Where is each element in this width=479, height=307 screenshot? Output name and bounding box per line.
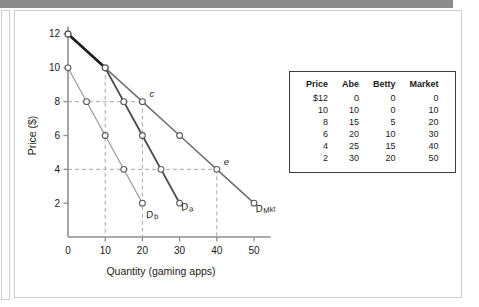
table-cell: 10	[335, 104, 366, 116]
table-cell: 20	[366, 152, 403, 164]
table-row: $12000	[299, 92, 446, 104]
demand-schedule-table: Price Abe Betty Market $1200010100108155…	[289, 71, 456, 173]
data-point-market	[214, 166, 220, 172]
x-axis-title: Quantity (gaming apps)	[106, 265, 215, 277]
th-abe: Abe	[335, 79, 366, 92]
point-label-c: c	[149, 88, 154, 99]
data-point-abe	[158, 166, 164, 172]
table-row: 1010010	[299, 104, 446, 116]
left-margin-strip	[1, 10, 10, 300]
table-cell: $12	[299, 92, 335, 104]
table-header-row: Price Abe Betty Market	[299, 79, 446, 92]
table-row: 815520	[299, 116, 446, 128]
table-cell: 40	[403, 140, 446, 152]
curve-label-market: DMkt	[254, 199, 277, 217]
table-cell: 8	[299, 116, 335, 128]
demand-schedule: Price Abe Betty Market $1200010100108155…	[299, 79, 446, 164]
y-tick-label: 10	[49, 62, 61, 73]
table-cell: 4	[299, 140, 335, 152]
table-cell: 6	[299, 128, 335, 140]
table-cell: 15	[335, 116, 366, 128]
table-cell: 2	[299, 152, 335, 164]
demand-curve-figure: 2468101201020304050Quantity (gaming apps…	[15, 11, 463, 299]
table-row: 4251540	[299, 140, 446, 152]
data-point-betty	[102, 133, 108, 139]
page-panel: 2468101201020304050Quantity (gaming apps…	[14, 10, 462, 298]
table-cell: 10	[403, 104, 446, 116]
data-point-market	[140, 99, 146, 105]
data-point-betty	[84, 99, 90, 105]
data-point-abe	[140, 133, 146, 139]
table-cell: 0	[403, 92, 446, 104]
data-point-betty	[140, 200, 146, 206]
table-cell: 30	[335, 152, 366, 164]
curve-label-abe: Da	[180, 200, 194, 216]
header-bar-right-gap	[453, 0, 479, 8]
table-cell: 15	[366, 140, 403, 152]
x-tick-label: 50	[248, 245, 260, 256]
table-cell: 0	[335, 92, 366, 104]
y-tick-label: 6	[54, 130, 60, 141]
th-price: Price	[299, 79, 335, 92]
curve-label-betty: Db	[145, 207, 159, 223]
table-row: 2302050	[299, 152, 446, 164]
data-point-market	[102, 65, 108, 71]
point-label-e: e	[224, 156, 229, 167]
x-tick-label: 0	[65, 245, 71, 256]
table-cell: 50	[403, 152, 446, 164]
data-point-market	[65, 31, 71, 37]
table-cell: 5	[366, 116, 403, 128]
table-cell: 10	[366, 128, 403, 140]
curve-overlap-segment	[68, 34, 105, 68]
svg-text:Da: Da	[180, 200, 194, 216]
y-tick-label: 4	[54, 164, 60, 175]
svg-text:Db: Db	[145, 207, 159, 223]
table-cell: 0	[366, 104, 403, 116]
table-cell: 20	[403, 116, 446, 128]
data-point-market	[177, 133, 183, 139]
th-market: Market	[403, 79, 446, 92]
y-tick-label: 2	[54, 198, 60, 209]
th-betty: Betty	[366, 79, 403, 92]
top-header-bar	[0, 0, 479, 8]
data-point-betty	[65, 65, 71, 71]
table-cell: 10	[299, 104, 335, 116]
table-cell: 0	[366, 92, 403, 104]
table-cell: 20	[335, 128, 366, 140]
x-tick-label: 20	[137, 245, 149, 256]
data-point-abe	[121, 99, 127, 105]
table-row: 6201030	[299, 128, 446, 140]
x-tick-label: 10	[100, 245, 112, 256]
svg-text:DMkt: DMkt	[254, 199, 277, 217]
y-axis-title: Price ($)	[26, 116, 38, 156]
curve-demand-abe	[68, 34, 180, 203]
table-body: $120001010010815520620103042515402302050	[299, 92, 446, 164]
x-tick-label: 30	[174, 245, 186, 256]
y-tick-label: 12	[49, 28, 61, 39]
y-tick-label: 8	[54, 96, 60, 107]
table-cell: 25	[335, 140, 366, 152]
data-point-betty	[121, 166, 127, 172]
x-tick-label: 40	[211, 245, 223, 256]
table-cell: 30	[403, 128, 446, 140]
